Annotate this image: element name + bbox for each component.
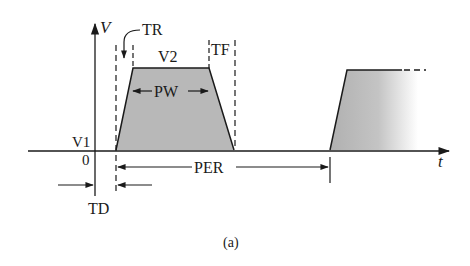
v2-label: V2 [158, 48, 178, 65]
pw-label: PW [154, 83, 179, 100]
pulse-waveform-diagram: V t 0 V1 V2 TR TF PW PER TD (a) [0, 0, 470, 266]
origin-label: 0 [82, 152, 90, 168]
v1-label: V1 [72, 134, 90, 150]
t-axis-label: t [438, 152, 444, 171]
per-label: PER [194, 159, 224, 176]
figure-caption: (a) [223, 235, 239, 251]
tr-label: TR [142, 21, 163, 38]
v-axis-label: V [100, 18, 113, 37]
td-label: TD [88, 200, 109, 217]
first-pulse-fill [116, 68, 234, 150]
tr-pointer-arrow [124, 30, 140, 58]
second-pulse-fill [330, 70, 418, 150]
tf-label: TF [211, 41, 230, 58]
